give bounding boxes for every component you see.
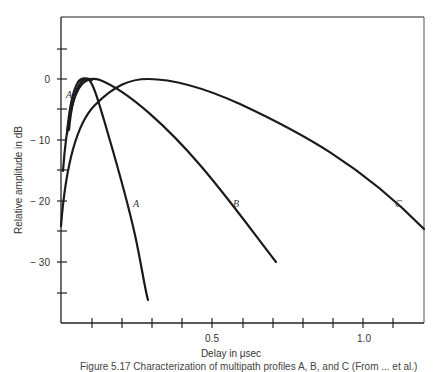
- x-tick-label-1-0: 1.0: [357, 333, 371, 344]
- y-tick-label-0: 0: [44, 74, 50, 85]
- curves: [61, 78, 424, 300]
- y-tick-label-minus30: − 30: [30, 257, 50, 268]
- x-axis-title: Delay in μsec: [201, 348, 261, 359]
- curve-label-a-bottom: A: [132, 198, 140, 209]
- y-tick-label-minus10: − 10: [30, 135, 50, 146]
- curve-label-a-top: A: [65, 89, 73, 100]
- curve-label-c: C: [395, 198, 402, 209]
- y-axis-title: Relative amplitude in dB: [13, 126, 24, 234]
- curve-label-b: B: [233, 198, 239, 209]
- curve-a-outer: [67, 78, 148, 300]
- plot-frame: [61, 17, 424, 323]
- curve-c: [61, 79, 424, 229]
- figure-caption: Figure 5.17 Characterization of multipat…: [80, 361, 417, 372]
- y-tick-label-minus20: − 20: [30, 196, 50, 207]
- x-tick-label-0-5: 0.5: [205, 333, 219, 344]
